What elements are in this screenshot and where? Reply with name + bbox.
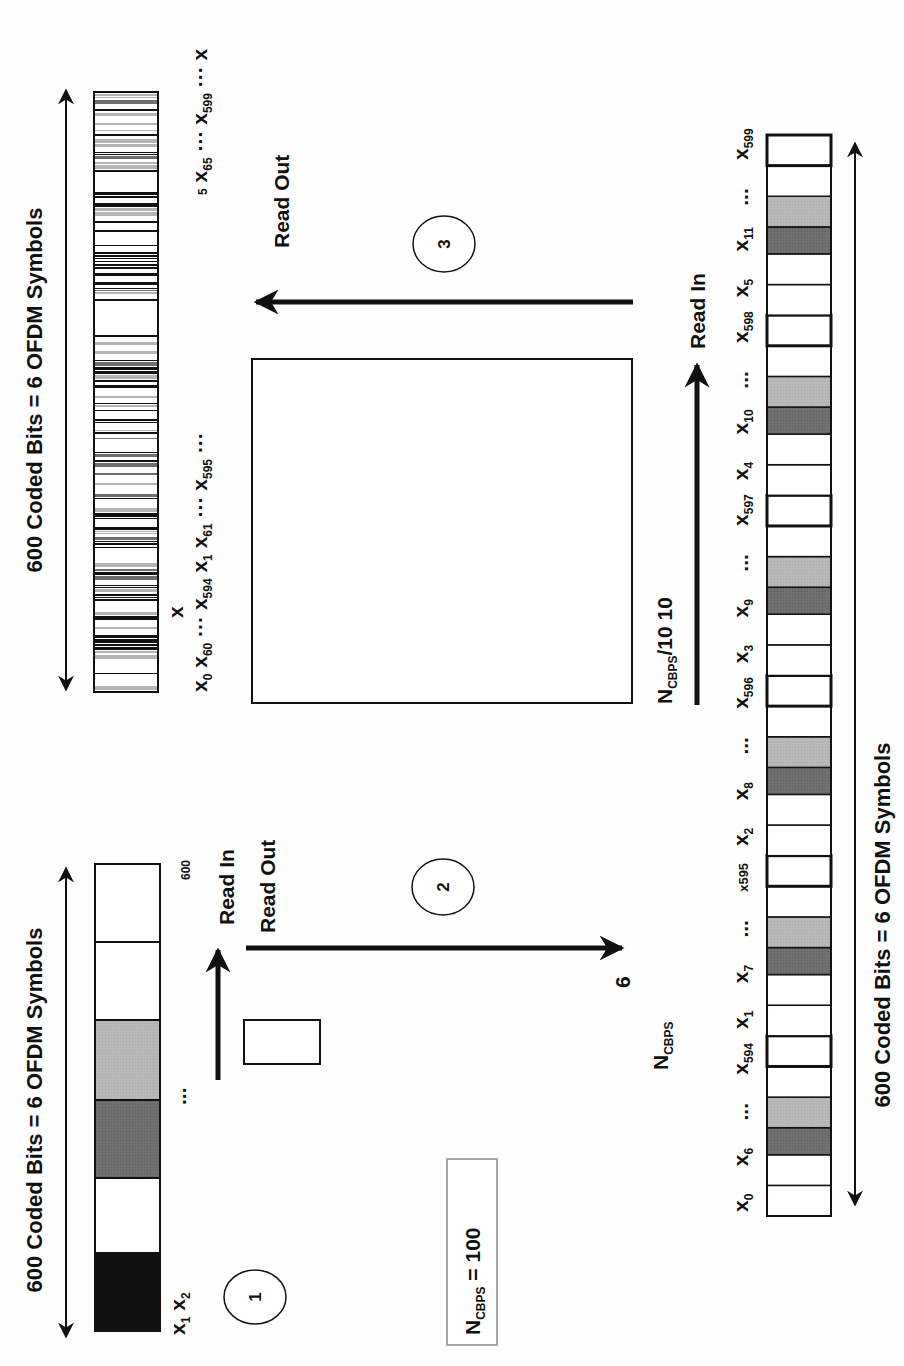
- barcode-stripe: [95, 94, 157, 96]
- right-bar-cell: [767, 856, 831, 887]
- barcode-stripe: [95, 587, 157, 588]
- barcode-stripe: [95, 152, 157, 153]
- barcode-stripe: [95, 508, 157, 512]
- stage1-step-number: 1: [246, 1292, 265, 1301]
- barcode-stripe: [95, 612, 157, 615]
- right-bar-cell: [767, 434, 831, 465]
- barcode-stripe: [95, 422, 157, 423]
- right-bar-cell: [767, 614, 831, 645]
- barcode-stripe: [95, 375, 157, 379]
- barcode-stripe: [95, 594, 157, 596]
- barcode-stripe: [95, 134, 157, 136]
- right-bar-label: ...: [729, 371, 752, 389]
- barcode-stripe: [95, 686, 157, 690]
- barcode-stripe: [95, 541, 157, 542]
- barcode-stripe: [95, 585, 157, 586]
- stage3-step-number: 3: [435, 239, 454, 248]
- interleaver-diagram: 600 Coded Bits = 6 OFDM Symbols x0 x60 ·…: [0, 0, 904, 1366]
- input-title: 600 Coded Bits = 6 OFDM Symbols: [22, 928, 47, 1293]
- barcode-stripe: [95, 430, 157, 431]
- barcode-stripe: [95, 518, 157, 519]
- barcode-stripe: [95, 212, 157, 216]
- stage3-group: Read Out 3 NCBPS/10 10 Read In: [252, 155, 709, 705]
- barcode-stripe: [95, 97, 157, 98]
- right-bar-cell: [767, 825, 831, 856]
- barcode-stripe: [95, 380, 157, 382]
- right-bar-cell: [767, 166, 831, 197]
- barcode-stripe: [95, 196, 157, 198]
- barcode-stripe: [95, 208, 157, 211]
- barcode-stripe: [95, 463, 157, 467]
- barcode-stripe: [95, 221, 157, 223]
- barcode-stripe: [95, 494, 157, 497]
- barcode-stripe: [95, 156, 157, 159]
- output-barcode-bar: [94, 92, 158, 692]
- barcode-stripe: [95, 639, 157, 643]
- right-bar-label: x3: [729, 644, 756, 663]
- barcode-stripe: [95, 533, 157, 534]
- barcode-stripe: [95, 531, 157, 532]
- right-bar-label: x0: [729, 1193, 756, 1212]
- stage3-matrix-dims: NCBPS/10 10: [653, 597, 680, 704]
- right-bar-label: x5: [729, 279, 756, 298]
- right-bar-cell: [767, 254, 831, 285]
- right-bar-label: ...: [729, 920, 752, 938]
- barcode-stripe: [95, 130, 157, 131]
- right-bar-cell: [767, 1097, 831, 1128]
- barcode-stripe: [95, 288, 157, 289]
- right-bar-cell: [767, 526, 831, 557]
- barcode-stripe: [95, 261, 157, 262]
- barcode-stripe: [95, 537, 157, 540]
- barcode-stripe: [95, 299, 157, 301]
- output-title: 600 Coded Bits = 6 OFDM Symbols: [22, 208, 47, 573]
- barcode-stripe: [95, 513, 157, 517]
- barcode-stripe: [95, 644, 157, 646]
- right-bar-cell: [767, 1185, 831, 1216]
- barcode-stripe: [95, 335, 157, 337]
- barcode-stripe: [95, 599, 157, 601]
- right-bar-cell: [767, 948, 831, 975]
- stage3-read-in-label: Read In: [686, 273, 709, 349]
- right-bar-cells: [767, 135, 831, 1216]
- right-bar-cell: [767, 676, 831, 707]
- barcode-stripe: [95, 473, 157, 475]
- right-bar-label: x7: [729, 965, 756, 984]
- barcode-stripe: [95, 498, 157, 499]
- right-bar-label: x10: [729, 409, 756, 434]
- barcode-stripe: [95, 454, 157, 457]
- right-bar-cell: [767, 794, 831, 825]
- barcode-stripe: [95, 123, 157, 125]
- barcode-stripe: [95, 543, 157, 545]
- output-stray-x: x: [164, 606, 187, 618]
- right-bar-cell: [767, 315, 831, 346]
- barcode-stripe: [95, 635, 157, 638]
- right-bar-cell: [767, 975, 831, 1006]
- barcode-stripe: [95, 192, 157, 195]
- barcode-stripe: [95, 139, 157, 143]
- right-bar-cell: [767, 407, 831, 434]
- right-bar-label: x11: [729, 227, 756, 252]
- right-bar-label: x596: [729, 677, 756, 709]
- barcode-stripe: [95, 483, 157, 485]
- barcode-stripe: [95, 255, 157, 257]
- barcode-stripe: [95, 438, 157, 439]
- right-bar-cell: [767, 227, 831, 254]
- barcode-stripe: [95, 342, 157, 345]
- right-bar-label: x594: [729, 1043, 756, 1075]
- barcode-stripe: [95, 405, 157, 407]
- right-title: 600 Coded Bits = 6 OFDM Symbols: [870, 743, 895, 1108]
- barcode-stripe: [95, 290, 157, 291]
- input-cell-2: [95, 1178, 160, 1253]
- barcode-stripe: [95, 597, 157, 598]
- stage2-matrix-cols: 6: [611, 976, 634, 988]
- right-bar-label: x597: [729, 494, 756, 526]
- barcode-stripe: [95, 410, 157, 411]
- right-bar-labels: x0x6...x594x1x7...x595x2x8...x596x3x9...…: [729, 128, 756, 1212]
- right-bar-label: x8: [729, 782, 756, 801]
- barcode-stripe: [95, 100, 157, 104]
- barcode-stripe: [95, 385, 157, 388]
- barcode-stripe: [95, 109, 157, 111]
- right-bar-cell: [767, 1005, 831, 1036]
- stage2-read-out-label: Read Out: [256, 840, 279, 933]
- right-bar-cell: [767, 135, 831, 166]
